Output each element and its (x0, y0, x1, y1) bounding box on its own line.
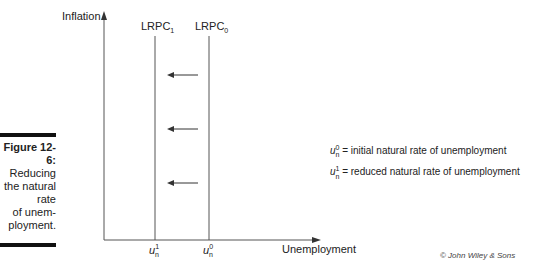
legend: u0n = initial natural rate of unemployme… (330, 141, 520, 184)
legend-item: u1n = reduced natural rate of unemployme… (330, 162, 520, 183)
left-arrow-icon (167, 180, 174, 186)
left-arrow-icon (167, 72, 174, 78)
lrpc1-label: LRPC1 (141, 20, 174, 34)
y-axis-label: Inflation (62, 10, 101, 22)
lrpc0-label: LRPC0 (195, 20, 228, 34)
tick-un1: u1n (149, 243, 159, 258)
tick-un0: u0n (203, 243, 213, 258)
shift-arrows (167, 72, 198, 186)
phillips-curve-diagram (0, 0, 536, 269)
y-axis-arrowhead-icon (101, 11, 107, 20)
copyright-credit: © John Wiley & Sons (440, 251, 515, 260)
legend-item: u0n = initial natural rate of unemployme… (330, 141, 520, 162)
left-arrow-icon (167, 126, 174, 132)
x-axis-label: Unemployment (282, 243, 356, 255)
